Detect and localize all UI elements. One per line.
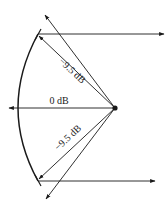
bottom-tick: [35, 175, 41, 186]
lower-label: −9.5 dB: [52, 122, 83, 152]
lower-inner-arrow: [39, 108, 115, 179]
lower-outer-arrow: [46, 108, 115, 199]
upper-label: −9.5 dB: [57, 55, 88, 85]
source-point: [112, 105, 117, 110]
beam-arc: [18, 34, 38, 181]
beam-pattern-diagram: −9.5 dB 0 dB −9.5 dB: [0, 0, 168, 208]
top-tick: [35, 29, 41, 40]
center-label: 0 dB: [49, 95, 69, 106]
